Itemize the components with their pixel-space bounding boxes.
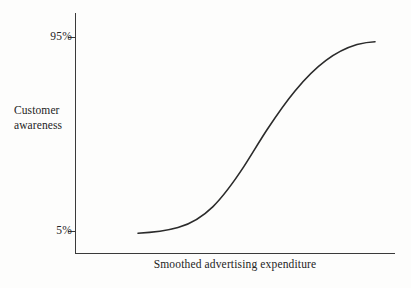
- x-axis-label: Smoothed advertising expenditure: [75, 258, 395, 270]
- chart-figure: 95% 5% Customer awareness Smoothed adver…: [0, 0, 411, 288]
- y-axis-label-line-2: awareness: [14, 118, 72, 133]
- awareness-response-curve: [138, 42, 375, 233]
- y-axis-label: Customer awareness: [14, 103, 72, 132]
- y-tick-label-95: 95%: [50, 30, 72, 42]
- y-tick-label-5: 5%: [56, 224, 72, 236]
- chart-plot-area: [0, 0, 411, 288]
- y-axis-label-line-1: Customer: [14, 103, 72, 118]
